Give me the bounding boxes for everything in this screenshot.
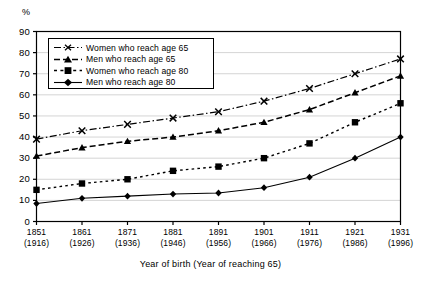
legend-item-men-65: Men who reach age 65 <box>53 54 209 66</box>
x-tick-label: 1861(1926) <box>59 227 105 249</box>
legend-item-women-65: Women who reach age 65 <box>53 42 209 54</box>
y-tick-label: 10 <box>4 194 30 205</box>
y-tick-label: 40 <box>4 131 30 142</box>
diamond-icon <box>124 193 130 200</box>
x-tick-reach-year: (1996) <box>378 238 421 249</box>
y-axis-unit-label: % <box>22 7 30 17</box>
legend-key-women-80 <box>53 65 83 76</box>
x-tick-label: 1911(1976) <box>287 227 333 249</box>
square-icon <box>170 168 176 174</box>
x-tick-birth-year: 1911 <box>287 227 333 238</box>
series-4 <box>33 134 403 207</box>
x-tick-birth-year: 1871 <box>105 227 151 238</box>
diamond-icon <box>397 134 403 141</box>
x-tick-label: 1891(1956) <box>196 227 242 249</box>
x-tick-birth-year: 1881 <box>150 227 196 238</box>
diamond-icon <box>33 200 39 207</box>
x-tick-reach-year: (1986) <box>332 238 378 249</box>
legend-label-men-80: Men who reach age 80 <box>86 77 175 87</box>
diamond-icon <box>64 78 72 86</box>
y-tick-label: 30 <box>4 152 30 163</box>
x-tick-birth-year: 1921 <box>332 227 378 238</box>
x-tick-label: 1901(1966) <box>241 227 287 249</box>
x-tick-label: 1871(1936) <box>105 227 151 249</box>
diamond-icon <box>215 190 221 197</box>
diamond-icon <box>261 184 267 191</box>
legend-item-women-80: Women who reach age 80 <box>53 65 209 77</box>
x-tick-reach-year: (1976) <box>287 238 333 249</box>
x-tick-reach-year: (1936) <box>105 238 151 249</box>
y-tick-label: 60 <box>4 89 30 100</box>
square-icon <box>65 67 72 74</box>
x-tick-label: 1931(1996) <box>378 227 421 249</box>
x-tick-birth-year: 1851 <box>14 227 60 238</box>
diamond-icon <box>352 155 358 162</box>
x-tick-reach-year: (1966) <box>241 238 287 249</box>
x-tick-reach-year: (1956) <box>196 238 242 249</box>
square-icon <box>215 163 221 169</box>
x-tick-birth-year: 1901 <box>241 227 287 238</box>
legend: Women who reach age 65 Men who reach age… <box>48 38 214 89</box>
square-icon <box>397 100 403 106</box>
x-tick-label: 1881(1946) <box>150 227 196 249</box>
legend-key-men-80 <box>53 77 83 88</box>
legend-label-women-65: Women who reach age 65 <box>86 43 188 53</box>
cross-icon <box>306 85 313 92</box>
square-icon <box>79 180 85 186</box>
legend-key-women-65 <box>53 42 83 53</box>
y-tick-label: 50 <box>4 110 30 121</box>
x-tick-label: 1921(1986) <box>332 227 378 249</box>
y-tick-label: 20 <box>4 173 30 184</box>
x-tick-birth-year: 1861 <box>59 227 105 238</box>
chart-container: % 9080706050403020100 1851(1916)1861(192… <box>0 0 421 281</box>
x-tick-birth-year: 1931 <box>378 227 421 238</box>
triangle-icon <box>260 119 267 125</box>
legend-key-men-65 <box>53 54 83 65</box>
square-icon <box>261 155 267 161</box>
y-tick-label: 80 <box>4 47 30 58</box>
cross-icon <box>261 98 268 105</box>
x-tick-reach-year: (1946) <box>150 238 196 249</box>
legend-label-women-80: Women who reach age 80 <box>86 66 188 76</box>
y-tick-label: 90 <box>4 26 30 37</box>
triangle-icon <box>397 72 404 78</box>
x-tick-reach-year: (1926) <box>59 238 105 249</box>
square-icon <box>124 176 130 182</box>
square-icon <box>306 140 312 146</box>
square-icon <box>352 119 358 125</box>
x-tick-reach-year: (1916) <box>14 238 60 249</box>
x-tick-label: 1851(1916) <box>14 227 60 249</box>
y-tick-label: 70 <box>4 68 30 79</box>
legend-label-men-65: Men who reach age 65 <box>86 54 175 64</box>
legend-item-men-80: Men who reach age 80 <box>53 77 209 89</box>
diamond-icon <box>170 191 176 198</box>
x-tick-birth-year: 1891 <box>196 227 242 238</box>
y-tick-label: 0 <box>4 216 30 227</box>
x-axis-title: Year of birth (Year of reaching 65) <box>0 259 421 269</box>
square-icon <box>33 187 39 193</box>
